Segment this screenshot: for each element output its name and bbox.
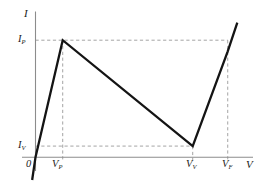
x-tick-valley-voltage: VV — [186, 159, 196, 170]
figure-canvas: I V 0 IP IV VP VV VF — [0, 0, 269, 187]
x-tick-valley-voltage-sub: V — [192, 163, 196, 170]
y-tick-valley-current-base: I — [18, 139, 22, 150]
x-tick-forward-voltage-sub: F — [228, 163, 232, 170]
origin-label: 0 — [26, 159, 31, 170]
x-tick-peak-voltage-sub: P — [58, 163, 62, 170]
y-tick-peak-current-base: I — [18, 33, 22, 44]
y-tick-peak-current: IP — [18, 34, 25, 45]
x-axis-label: V — [246, 159, 253, 170]
axes — [22, 12, 253, 172]
y-tick-valley-current-sub: V — [22, 144, 26, 151]
x-tick-peak-voltage: VP — [52, 159, 62, 170]
y-tick-peak-current-sub: P — [22, 38, 26, 45]
x-tick-forward-voltage: VF — [222, 159, 232, 170]
guide-lines — [36, 40, 228, 160]
y-tick-valley-current: IV — [18, 140, 25, 151]
y-axis-label: I — [24, 8, 28, 19]
